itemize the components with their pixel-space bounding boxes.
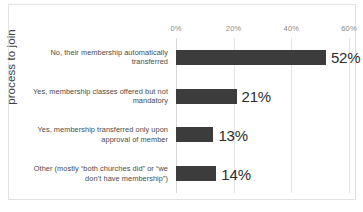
category-label-line: transferred	[132, 57, 168, 66]
bar-value-label: 52%	[331, 49, 360, 66]
bar-row: 13%	[176, 127, 349, 142]
bar	[176, 166, 216, 181]
bar-row: 52%	[176, 50, 349, 65]
x-tick-label: 20%	[226, 24, 242, 33]
category-label-line: No, their membership automatically	[50, 48, 168, 57]
bar-row: 14%	[176, 166, 349, 181]
y-axis-title: process to join	[5, 22, 19, 112]
bar-value-label: 21%	[242, 88, 271, 105]
category-label-line: Yes, membership classes offered but not	[33, 87, 168, 96]
category-label: Other (mostly “both churches did” or “we…	[20, 164, 168, 183]
x-tick-label: 60%	[341, 24, 357, 33]
bar-row: 21%	[176, 89, 349, 104]
plot-area: 52%21%13%14%	[176, 38, 349, 193]
x-axis-tick-labels: 0%20%40%60%	[176, 24, 349, 36]
category-label-line: Other (mostly “both churches did” or “we	[34, 164, 168, 173]
x-tick-label: 0%	[170, 24, 181, 33]
category-label-line: don’t have membership”)	[85, 174, 168, 183]
category-label: No, their membership automaticallytransf…	[20, 48, 168, 67]
bar-value-label: 14%	[221, 165, 250, 182]
bar	[176, 50, 326, 65]
category-label-line: Yes, membership transferred only upon	[37, 125, 168, 134]
category-label-line: approval of member	[101, 135, 168, 144]
bar-chart: process to join 0%20%40%60% No, their me…	[0, 0, 363, 212]
category-label-line: mandatory	[133, 96, 168, 105]
category-label: Yes, membership classes offered but notm…	[20, 87, 168, 106]
bar-value-label: 13%	[218, 126, 247, 143]
category-label: Yes, membership transferred only uponapp…	[20, 125, 168, 144]
category-axis-labels: No, their membership automaticallytransf…	[22, 38, 172, 193]
x-tick-label: 40%	[284, 24, 300, 33]
bar	[176, 89, 237, 104]
bar	[176, 127, 213, 142]
